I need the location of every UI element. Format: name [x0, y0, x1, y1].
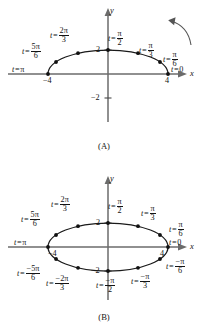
t-label-a-pi-2: t=π2 [108, 30, 123, 48]
t-label-b-neg5pi-6: t=−5π6 [17, 265, 41, 283]
x-tick-neg4-a: −4 [43, 76, 52, 85]
y-axis-label-b: y [110, 173, 114, 183]
t-label-b-pi-2: t=π2 [108, 198, 123, 216]
t-label-b-neg-pi-6: t=−π6 [166, 258, 186, 276]
x-axis-label-a: x [190, 68, 194, 78]
x-axis-a [8, 71, 187, 78]
panel-a: y x 2 −2 −4 4 t=0 t=π6 t=π3 t=π2 t=2π3 t… [0, 0, 208, 165]
x-tick-4-a: 4 [165, 76, 169, 85]
t-label-b-pi: t=π [14, 239, 26, 247]
t-label-b-neg2pi-3: t=−2π3 [46, 275, 70, 293]
direction-arrow-icon [168, 17, 191, 45]
t-label-b-5pi-6: t=5π6 [21, 211, 40, 229]
t-label-a-5pi-6: t=5π6 [22, 43, 41, 61]
y-tick-neg2-a: −2 [91, 93, 100, 102]
t-label-b-2pi-3: t=2π3 [51, 196, 70, 214]
t-label-b-0: t=0 [169, 239, 181, 247]
panel-a-caption: (A) [0, 141, 208, 151]
y-tick-neg2-b: −2 [91, 266, 100, 275]
y-axis-label-a: y [110, 5, 114, 15]
y-axis-a [105, 8, 112, 122]
y-tick-2-b: 2 [96, 218, 100, 227]
x-axis-label-b: x [190, 241, 194, 251]
panel-b: y x 2 −2 −4 4 t=0 t=π6 t=π3 t=π2 t=2π3 t… [0, 160, 208, 330]
t-label-b-neg-pi-3: t=−π3 [131, 273, 151, 291]
panel-b-caption: (B) [0, 312, 208, 322]
t-label-a-pi-6: t=π6 [163, 51, 178, 69]
t-label-b-pi-6: t=π6 [169, 221, 184, 239]
t-label-a-2pi-3: t=2π3 [50, 27, 69, 45]
y-tick-2-a: 2 [96, 45, 100, 54]
x-tick-neg4-b: −4 [48, 249, 57, 258]
t-label-a-pi-3: t=π3 [139, 42, 154, 60]
t-label-b-pi-3: t=π3 [141, 205, 156, 223]
x-tick-4-b: 4 [160, 249, 164, 258]
t-label-a-pi: t=π [12, 66, 24, 74]
t-label-b-neg-pi-2: t=−π2 [96, 277, 116, 295]
